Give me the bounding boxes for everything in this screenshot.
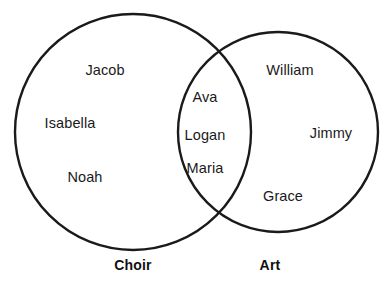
member-label-intersection: Logan (185, 127, 226, 143)
member-label-intersection: Maria (187, 160, 224, 176)
member-label-intersection: Ava (192, 89, 217, 105)
member-label-choir-only: Jacob (85, 62, 124, 78)
member-label-choir-only: Isabella (45, 115, 96, 131)
set-label-choir: Choir (114, 257, 152, 273)
member-label-art-only: Grace (263, 188, 303, 204)
member-label-art-only: Jimmy (310, 125, 352, 141)
set-label-art: Art (260, 257, 281, 273)
member-label-art-only: William (266, 62, 313, 78)
member-label-choir-only: Noah (67, 169, 102, 185)
venn-diagram: Jacob Isabella Noah Ava Logan Maria Will… (0, 0, 390, 288)
venn-circles-svg (0, 0, 390, 288)
